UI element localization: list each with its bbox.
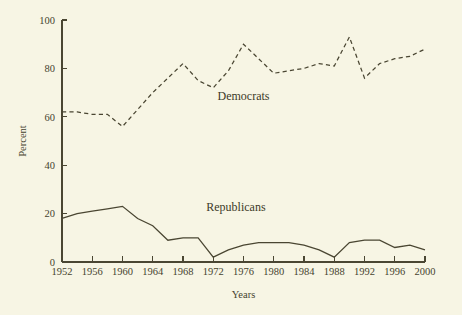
axes-group xyxy=(62,20,425,262)
x-tick-label: 1988 xyxy=(324,266,345,277)
x-tick-label: 1968 xyxy=(173,266,194,277)
y-tick-label: 40 xyxy=(45,160,56,171)
line-chart: 020406080100 195219561960196419681972197… xyxy=(0,0,462,315)
x-tick-label: 1976 xyxy=(233,266,254,277)
series-label-republicans: Republicans xyxy=(206,200,266,214)
x-tick-label: 1980 xyxy=(263,266,284,277)
x-tick-label: 1960 xyxy=(112,266,133,277)
series-annotation-group: DemocratsRepublicans xyxy=(206,89,270,214)
series-label-democrats: Democrats xyxy=(218,89,270,103)
series-line-democrats xyxy=(62,37,425,127)
data-series-group xyxy=(62,37,425,257)
x-tick-label: 1964 xyxy=(142,266,164,277)
y-tick-label: 80 xyxy=(45,63,56,74)
x-tick-label: 2000 xyxy=(415,266,436,277)
x-axis-ticks: 1952195619601964196819721976198019841988… xyxy=(52,256,436,277)
x-axis-title: Years xyxy=(232,289,255,300)
y-axis-ticks: 020406080100 xyxy=(39,15,67,268)
y-tick-label: 20 xyxy=(45,208,56,219)
x-tick-label: 1992 xyxy=(354,266,375,277)
x-tick-label: 1984 xyxy=(294,266,316,277)
x-tick-label: 1996 xyxy=(384,266,405,277)
x-tick-label: 1972 xyxy=(203,266,224,277)
chart-container: 020406080100 195219561960196419681972197… xyxy=(0,0,462,315)
y-axis-title: Percent xyxy=(17,125,28,157)
x-tick-label: 1952 xyxy=(52,266,73,277)
y-tick-label: 100 xyxy=(39,15,55,26)
y-tick-label: 60 xyxy=(45,112,56,123)
x-tick-label: 1956 xyxy=(82,266,103,277)
